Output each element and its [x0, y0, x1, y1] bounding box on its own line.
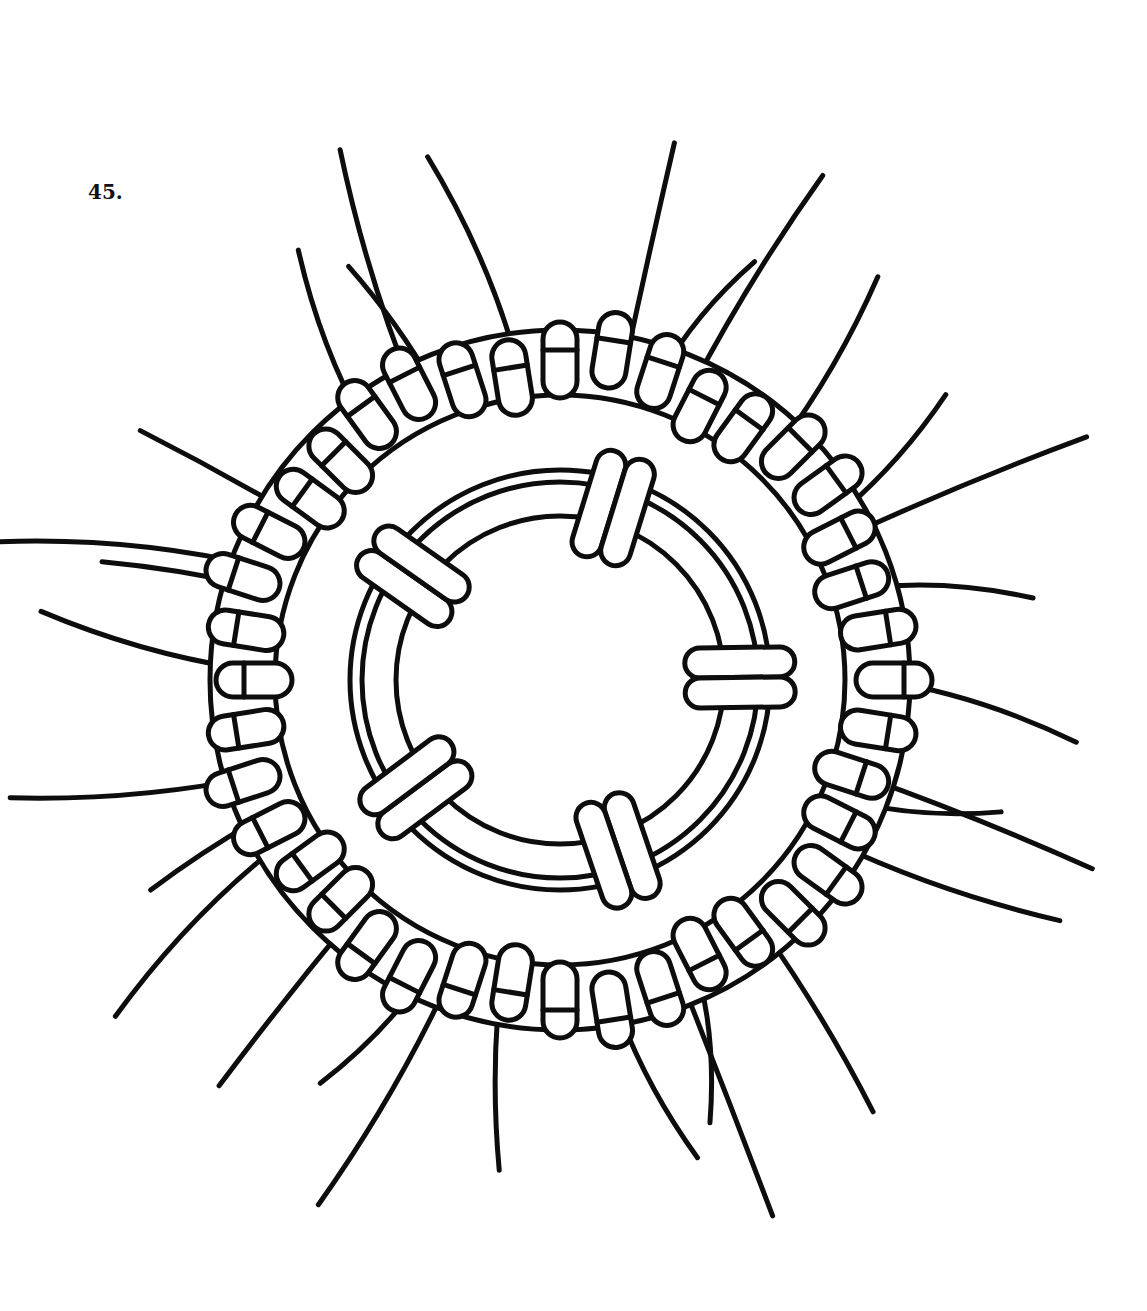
macrame-rosette-illustration	[0, 0, 1147, 1311]
